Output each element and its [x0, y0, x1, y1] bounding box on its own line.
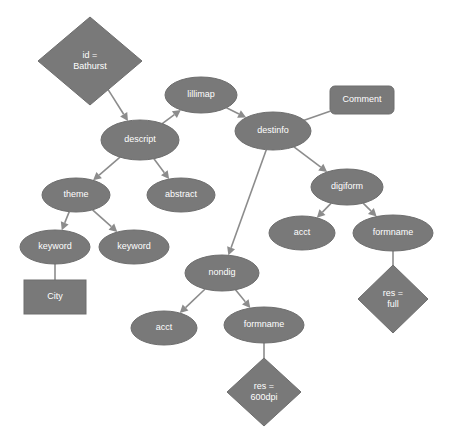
graph-node-descript[interactable]: descript: [101, 120, 179, 160]
nodes-layer: id =BathurstlillimapCommentdescriptdesti…: [20, 17, 433, 426]
graph-node-abstract[interactable]: abstract: [147, 178, 215, 212]
node-ellipse[interactable]: [224, 307, 304, 343]
graph-diagram: id =BathurstlillimapCommentdescriptdesti…: [0, 0, 452, 441]
graph-edge: [236, 290, 251, 308]
edge-line: [108, 90, 124, 115]
edge-line: [304, 111, 330, 120]
graph-node-theme[interactable]: theme: [42, 178, 110, 212]
node-diamond[interactable]: [227, 358, 301, 426]
node-ellipse[interactable]: [131, 311, 197, 345]
node-ellipse[interactable]: [20, 230, 90, 264]
edge-arrowhead: [318, 164, 327, 172]
graph-node-res_full[interactable]: res =full: [358, 265, 428, 333]
node-diamond[interactable]: [38, 17, 142, 105]
graph-node-formname_nondig[interactable]: formname: [224, 307, 304, 343]
graph-edge: [154, 159, 169, 179]
graph-node-acct_digi[interactable]: acct: [269, 216, 335, 250]
node-ellipse[interactable]: [311, 169, 383, 205]
graph-edge: [363, 203, 376, 216]
edge-line: [186, 289, 206, 308]
node-ellipse[interactable]: [99, 230, 169, 264]
graph-node-id_bathurst[interactable]: id =Bathurst: [38, 17, 142, 105]
edge-line: [154, 159, 164, 173]
graph-edge: [93, 157, 120, 180]
node-ellipse[interactable]: [185, 255, 259, 291]
edge-arrowhead: [161, 170, 169, 179]
graph-node-digiform[interactable]: digiform: [311, 169, 383, 205]
graph-edge: [180, 289, 205, 313]
node-ellipse[interactable]: [269, 216, 335, 250]
node-ellipse[interactable]: [165, 77, 237, 113]
edge-line: [162, 115, 174, 124]
node-rounded-rect[interactable]: [330, 86, 394, 114]
node-ellipse[interactable]: [42, 178, 110, 212]
graph-edge: [61, 212, 69, 231]
edge-line: [363, 203, 371, 211]
graph-edge: [162, 110, 181, 124]
node-ellipse[interactable]: [235, 112, 311, 150]
node-ellipse[interactable]: [353, 215, 433, 251]
graph-edge: [317, 203, 331, 218]
graph-node-keyword_2[interactable]: keyword: [99, 230, 169, 264]
edge-arrowhead: [172, 110, 181, 118]
graph-node-lillimap[interactable]: lillimap: [165, 77, 237, 113]
graph-edge: [93, 210, 118, 232]
edge-line: [322, 203, 331, 212]
graph-node-formname_digi[interactable]: formname: [353, 215, 433, 251]
edge-line: [93, 210, 112, 227]
edge-line: [236, 290, 246, 302]
graph-node-city[interactable]: City: [24, 280, 86, 314]
graph-node-nondig[interactable]: nondig: [185, 255, 259, 291]
graph-node-destinfo[interactable]: destinfo: [235, 112, 311, 150]
graph-node-keyword_1[interactable]: keyword: [20, 230, 90, 264]
graph-edge: [304, 111, 330, 120]
graph-edge: [226, 108, 246, 118]
edge-line: [226, 108, 239, 114]
node-rect[interactable]: [24, 280, 86, 314]
graph-node-comment[interactable]: Comment: [330, 86, 394, 114]
node-diamond[interactable]: [358, 265, 428, 333]
node-ellipse[interactable]: [101, 120, 179, 160]
graph-edge: [108, 90, 128, 121]
edge-line: [99, 157, 120, 175]
edge-line: [231, 150, 266, 248]
edge-line: [65, 212, 70, 223]
graph-edge: [294, 147, 327, 172]
graph-node-res_600dpi[interactable]: res =600dpi: [227, 358, 301, 426]
node-ellipse[interactable]: [147, 178, 215, 212]
graph-edge: [227, 150, 266, 256]
edge-line: [294, 147, 321, 167]
graph-node-acct_nondig[interactable]: acct: [131, 311, 197, 345]
